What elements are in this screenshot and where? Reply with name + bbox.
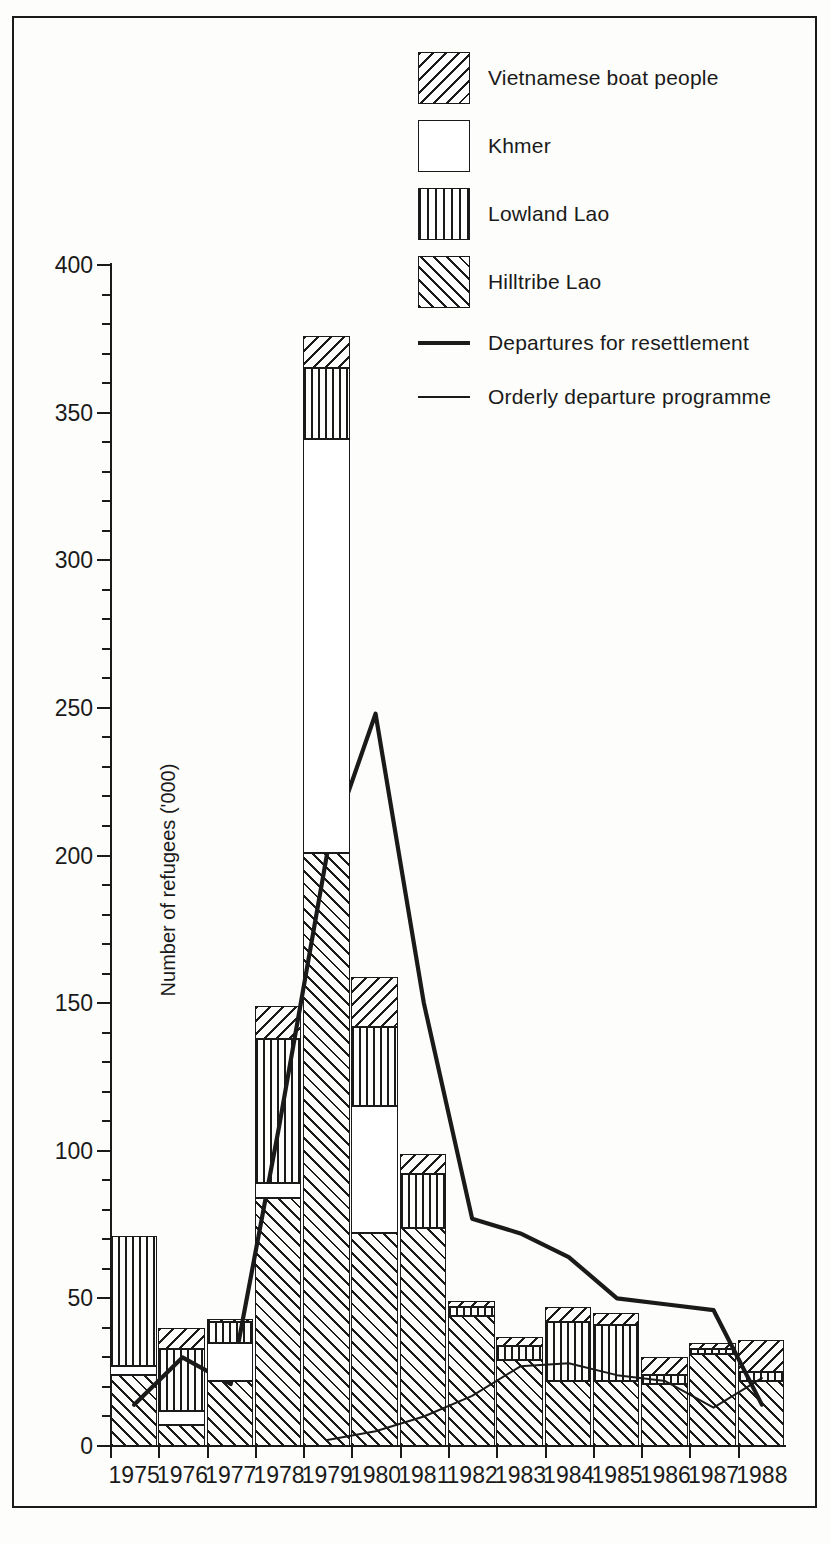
x-axis-tick: [400, 1446, 402, 1458]
bar-segment-lowland: [207, 1322, 254, 1343]
bar-segment-khmer: [351, 1106, 398, 1233]
y-axis-major-tick: [97, 1150, 110, 1152]
bar-segment-vbp: [545, 1307, 592, 1322]
bar-segment-vbp: [448, 1301, 495, 1307]
legend-swatch-lowland-icon: [418, 188, 470, 240]
bar-1988[interactable]: [738, 1340, 785, 1446]
bar-segment-lowland: [496, 1346, 543, 1361]
bar-1980[interactable]: [351, 977, 398, 1446]
y-axis-minor-tick: [102, 1327, 110, 1329]
y-axis-major-tick: [97, 264, 110, 266]
bar-1976[interactable]: [158, 1328, 205, 1446]
bar-segment-vbp: [351, 977, 398, 1027]
legend-item-khmer: Khmer: [418, 112, 788, 180]
bar-segment-lowland: [689, 1349, 736, 1355]
y-axis-minor-tick: [102, 1032, 110, 1034]
x-axis-tick-label: 1978: [253, 1462, 304, 1489]
bar-1981[interactable]: [400, 1154, 447, 1446]
bar-segment-vbp: [738, 1340, 785, 1372]
y-axis-major-tick: [97, 559, 110, 561]
x-axis-tick: [303, 1446, 305, 1458]
y-axis-minor-tick: [102, 1415, 110, 1417]
bar-segment-hill: [400, 1228, 447, 1446]
bar-segment-hill: [158, 1425, 205, 1446]
bar-segment-vbp: [400, 1154, 447, 1175]
x-axis-tick-label: 1975: [109, 1462, 160, 1489]
y-axis-minor-tick: [102, 1209, 110, 1211]
bar-segment-khmer: [110, 1366, 157, 1375]
x-axis-tick-label: 1979: [302, 1462, 353, 1489]
bar-segment-vbp: [641, 1357, 688, 1375]
y-axis-minor-tick: [102, 943, 110, 945]
x-axis-tick: [351, 1446, 353, 1458]
x-axis-tick: [110, 1446, 112, 1458]
x-axis-tick-label: 1985: [591, 1462, 642, 1489]
y-axis-tick-label: 100: [55, 1137, 93, 1164]
x-axis-tick-label: 1983: [495, 1462, 546, 1489]
bar-1985[interactable]: [593, 1313, 640, 1446]
y-axis-minor-tick: [102, 471, 110, 473]
y-axis-tick-label: 200: [55, 842, 93, 869]
y-axis-minor-tick: [102, 1238, 110, 1240]
y-axis-minor-tick: [102, 1179, 110, 1181]
y-axis-minor-tick: [102, 353, 110, 355]
bar-segment-vbp: [496, 1337, 543, 1346]
bar-segment-lowland: [545, 1322, 592, 1381]
legend-item-label: Lowland Lao: [488, 202, 609, 226]
bar-1983[interactable]: [496, 1337, 543, 1446]
y-axis-tick-label: 400: [55, 252, 93, 279]
x-axis-tick: [207, 1446, 209, 1458]
y-axis-minor-tick: [102, 382, 110, 384]
bar-segment-lowland: [351, 1027, 398, 1107]
bar-segment-hill: [593, 1381, 640, 1446]
x-axis-tick: [545, 1446, 547, 1458]
x-axis-tick-label: 1982: [447, 1462, 498, 1489]
bar-segment-lowland: [738, 1372, 785, 1381]
y-axis-title-wrap: Number of refugees ('000): [22, 680, 62, 1080]
y-axis-minor-tick: [102, 1268, 110, 1270]
y-axis-major-tick: [97, 1002, 110, 1004]
bar-segment-hill: [738, 1381, 785, 1446]
bar-segment-hill: [545, 1381, 592, 1446]
y-axis-minor-tick: [102, 1356, 110, 1358]
legend-swatch-vbp-icon: [418, 52, 470, 104]
x-axis-tick-label: 1984: [543, 1462, 594, 1489]
bar-segment-hill: [207, 1381, 254, 1446]
y-axis-minor-tick: [102, 500, 110, 502]
x-axis-tick-label: 1981: [398, 1462, 449, 1489]
bar-1977[interactable]: [207, 1319, 254, 1446]
x-axis-tick-label: 1987: [688, 1462, 739, 1489]
bar-segment-khmer: [158, 1411, 205, 1426]
x-axis-tick-label: 1977: [205, 1462, 256, 1489]
y-axis-minor-tick: [102, 1386, 110, 1388]
line-series-layer: [110, 265, 786, 1446]
bar-segment-hill: [641, 1384, 688, 1446]
bar-1982[interactable]: [448, 1301, 495, 1446]
y-axis-major-tick: [97, 707, 110, 709]
y-axis-minor-tick: [102, 884, 110, 886]
bar-segment-hill: [303, 853, 350, 1446]
x-axis-tick: [738, 1446, 740, 1458]
y-axis-minor-tick: [102, 973, 110, 975]
bar-1987[interactable]: [689, 1343, 736, 1446]
bar-segment-vbp: [593, 1313, 640, 1325]
bar-1984[interactable]: [545, 1307, 592, 1446]
bar-segment-khmer: [303, 439, 350, 852]
bar-1979[interactable]: [303, 336, 350, 1446]
legend-swatch-khmer-icon: [418, 120, 470, 172]
x-axis-tick-label: 1986: [640, 1462, 691, 1489]
bar-1978[interactable]: [255, 1006, 302, 1446]
y-axis-tick-label: 350: [55, 399, 93, 426]
y-axis-minor-tick: [102, 914, 110, 916]
y-axis-minor-tick: [102, 736, 110, 738]
x-axis-tick: [158, 1446, 160, 1458]
bar-1975[interactable]: [110, 1236, 157, 1446]
y-axis-minor-tick: [102, 618, 110, 620]
x-axis-tick: [496, 1446, 498, 1458]
bar-segment-hill: [496, 1360, 543, 1446]
bar-segment-lowland: [448, 1307, 495, 1316]
bar-1986[interactable]: [641, 1357, 688, 1446]
bar-segment-vbp: [689, 1343, 736, 1349]
bar-segment-lowland: [303, 368, 350, 439]
y-axis-tick-label: 150: [55, 990, 93, 1017]
